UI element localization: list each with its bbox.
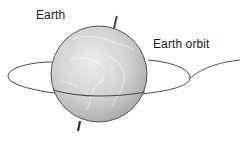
earth-orbit-label: Earth orbit	[153, 37, 209, 51]
earth-label: Earth	[36, 8, 65, 22]
axis-south-icon	[78, 121, 80, 131]
earth-orbit-diagram: Earth Earth orbit	[0, 0, 242, 141]
earth-globe-icon	[51, 26, 147, 122]
orbit-tail	[190, 60, 240, 78]
